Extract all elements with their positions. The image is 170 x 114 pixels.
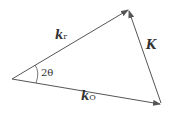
ko-label: kO (81, 89, 96, 103)
angle-arc (35, 65, 38, 83)
angle-label: 2θ (41, 67, 53, 78)
K-vector (129, 11, 161, 103)
scattering-vector-diagram: kr kO K 2θ (0, 0, 170, 114)
K-label: K (146, 38, 156, 52)
kr-label: kr (55, 28, 67, 42)
kr-vector (12, 10, 128, 79)
